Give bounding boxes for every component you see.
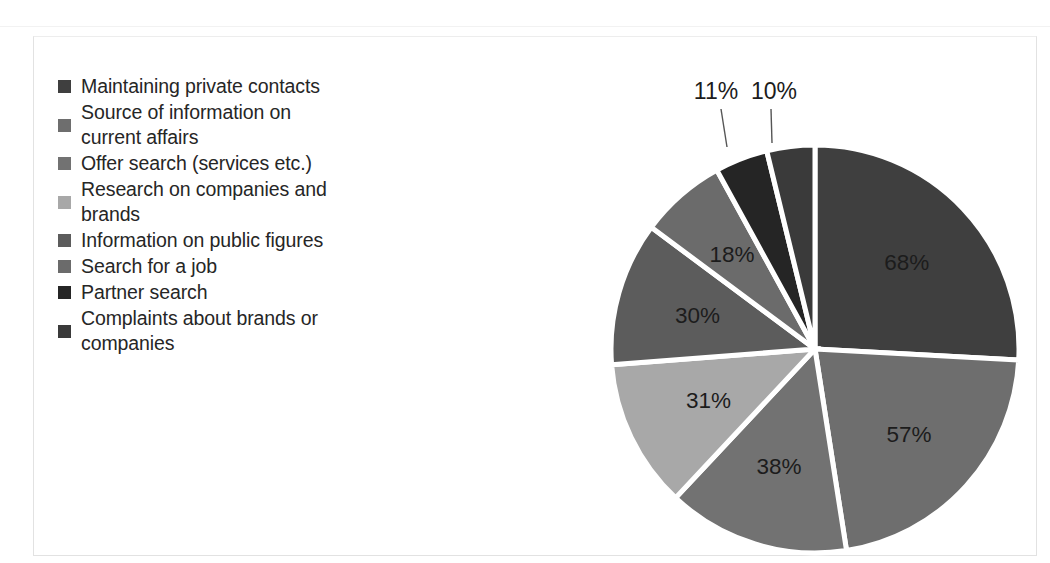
pie-chart: 68%57%38%31%30%18%11%10% (578, 65, 1018, 535)
slice-value-label: 30% (675, 303, 720, 328)
slice-value-label: 31% (686, 388, 731, 413)
slice-value-label: 11% (694, 78, 738, 104)
legend-item[interactable]: Offer search (services etc.) (58, 151, 448, 176)
legend-item[interactable]: Information on public figures (58, 228, 448, 253)
legend-item[interactable]: Partner search (58, 280, 448, 305)
legend-color-swatch (58, 325, 71, 338)
chart-frame: Maintaining private contactsSource of in… (33, 36, 1037, 556)
pie-slice[interactable] (815, 349, 1019, 551)
legend-item-label: Source of information on current affairs (81, 100, 291, 150)
legend-item-label: Search for a job (81, 254, 217, 279)
slice-value-label: 57% (886, 422, 931, 447)
legend-item-label: Information on public figures (81, 228, 323, 253)
legend-color-swatch (58, 234, 71, 247)
label-leader-line (771, 109, 772, 143)
slice-value-label: 10% (751, 78, 797, 104)
legend-item-label: Complaints about brands or companies (81, 306, 318, 356)
chart-legend: Maintaining private contactsSource of in… (58, 74, 448, 357)
legend-item-label: Maintaining private contacts (81, 74, 320, 99)
legend-item-label: Offer search (services etc.) (81, 151, 312, 176)
label-leader-line (721, 109, 727, 147)
legend-color-swatch (58, 196, 71, 209)
legend-item[interactable]: Source of information on current affairs (58, 100, 448, 150)
pie-svg: 68%57%38%31%30%18%11%10% (578, 65, 1018, 535)
legend-item[interactable]: Search for a job (58, 254, 448, 279)
legend-item[interactable]: Complaints about brands or companies (58, 306, 448, 356)
slice-value-label: 38% (756, 454, 801, 479)
slice-value-label: 18% (709, 242, 754, 267)
scan-artifact-line (0, 26, 1050, 27)
slice-value-label: 68% (884, 250, 929, 275)
chart-page: Maintaining private contactsSource of in… (0, 0, 1050, 563)
legend-color-swatch (58, 260, 71, 273)
legend-color-swatch (58, 80, 71, 93)
legend-color-swatch (58, 157, 71, 170)
legend-item-label: Partner search (81, 280, 208, 305)
legend-color-swatch (58, 286, 71, 299)
legend-item[interactable]: Maintaining private contacts (58, 74, 448, 99)
legend-item-label: Research on companies and brands (81, 177, 327, 227)
legend-color-swatch (58, 119, 71, 132)
legend-item[interactable]: Research on companies and brands (58, 177, 448, 227)
